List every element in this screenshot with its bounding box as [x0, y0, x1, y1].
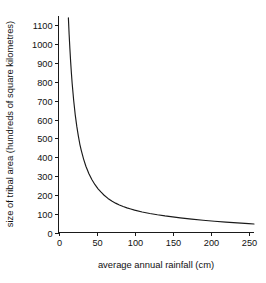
- y-tick-label: 100: [37, 210, 52, 220]
- y-tick-label: 800: [37, 78, 52, 88]
- y-tick-label: 600: [37, 116, 52, 126]
- y-tick-label: 1100: [33, 21, 53, 31]
- x-tick-label: 0: [57, 238, 62, 248]
- y-axis-group: 010020030040050060070080090010001100: [32, 16, 58, 239]
- data-curve: [68, 18, 254, 224]
- x-tick-label: 200: [204, 238, 219, 248]
- x-axis-group: 050100150200250: [57, 233, 257, 249]
- chart-figure: 010020030040050060070080090010001100 050…: [0, 0, 266, 283]
- y-tick-label: 700: [37, 97, 52, 107]
- x-axis-title: average annual rainfall (cm): [98, 259, 214, 270]
- x-tick-label: 250: [242, 238, 257, 248]
- chart-svg: 010020030040050060070080090010001100 050…: [0, 0, 266, 283]
- x-tick-label: 50: [92, 238, 102, 248]
- y-tick-label: 500: [37, 134, 52, 144]
- y-axis-title: size of tribal area (hundreds of square …: [4, 21, 15, 227]
- x-tick-labels: 050100150200250: [57, 238, 257, 248]
- y-tick-label: 400: [37, 153, 52, 163]
- y-tick-label: 300: [37, 172, 52, 182]
- x-tick-label: 100: [128, 238, 143, 248]
- y-tick-labels: 010020030040050060070080090010001100: [32, 21, 52, 239]
- y-tick-label: 900: [37, 59, 52, 69]
- y-tick-label: 0: [47, 229, 52, 239]
- y-tick-label: 200: [37, 191, 52, 201]
- x-tick-label: 150: [166, 238, 181, 248]
- data-series-group: [68, 18, 254, 224]
- y-tick-label: 1000: [32, 40, 52, 50]
